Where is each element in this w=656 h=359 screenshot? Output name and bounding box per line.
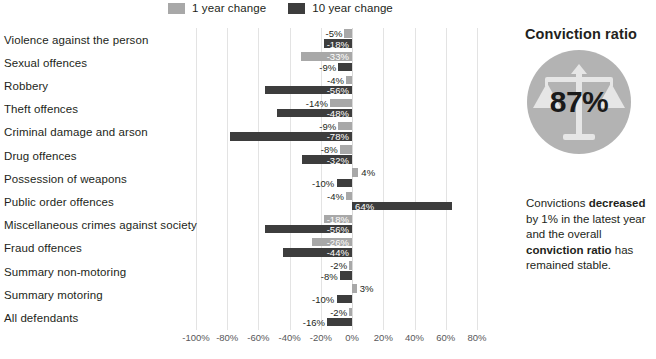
axis-tick-label: -60% <box>247 332 269 343</box>
bar-1-year-change <box>330 99 352 107</box>
axis-tick-label: -80% <box>216 332 238 343</box>
bar-1-year-change <box>340 145 352 153</box>
bar-10-year-change <box>338 63 352 71</box>
infographic-root: 1 year change 10 year change Violence ag… <box>0 0 656 359</box>
bar-10-year-change <box>337 295 353 303</box>
bar-value-label: -14% <box>306 99 328 109</box>
row-bars: -14%-48% <box>0 98 492 121</box>
emphasis-text: decreased <box>589 197 646 209</box>
bar-1-year-change <box>346 192 352 200</box>
panel-description: Convictions decreased by 1% in the lates… <box>526 196 654 274</box>
legend-swatch-icon <box>168 3 185 14</box>
chart-row: Theft offences-14%-48% <box>0 98 492 121</box>
chart-row: All defendants-2%-16% <box>0 306 492 329</box>
chart-row: Miscellaneous crimes against society-18%… <box>0 214 492 237</box>
chart-row: Robbery-4%-56% <box>0 74 492 97</box>
bar-1-year-change <box>344 29 352 37</box>
body-text: by 1% in the latest year and the overall <box>526 213 646 241</box>
conviction-ratio-dial: 87% <box>527 50 631 154</box>
bar-value-label: -26% <box>327 238 349 248</box>
chart-row: Violence against the person-5%-18% <box>0 28 492 51</box>
bar-value-label: -56% <box>327 86 349 96</box>
bar-value-label: -10% <box>312 295 334 305</box>
bar-value-label: -9% <box>319 63 336 73</box>
chart-row: Summary motoring3%-10% <box>0 283 492 306</box>
bar-value-label: -18% <box>327 40 349 50</box>
row-bars: 4%-10% <box>0 167 492 190</box>
axis-tick-label: 60% <box>436 332 455 343</box>
chart-row: Possession of weapons4%-10% <box>0 167 492 190</box>
bar-1-year-change <box>352 168 358 176</box>
bar-10-year-change <box>327 318 352 326</box>
conviction-ratio-panel: Conviction ratio 87% Convictions decreas… <box>497 0 656 359</box>
row-bars: -4%64% <box>0 190 492 213</box>
bar-value-label: -33% <box>327 52 349 62</box>
emphasis-text: conviction ratio <box>526 244 612 256</box>
axis-tick-label: -20% <box>310 332 332 343</box>
bar-value-label: -4% <box>327 192 344 202</box>
chart-row: Fraud offences-26%-44% <box>0 237 492 260</box>
bar-value-label: -9% <box>319 122 336 132</box>
bar-value-label: -5% <box>326 29 343 39</box>
bar-1-year-change <box>352 284 357 292</box>
row-bars: 3%-10% <box>0 283 492 306</box>
row-bars: -2%-8% <box>0 260 492 283</box>
bar-value-label: -44% <box>327 248 349 258</box>
chart-legend: 1 year change 10 year change <box>168 2 393 14</box>
bar-value-label: -16% <box>303 318 325 328</box>
row-bars: -26%-44% <box>0 237 492 260</box>
row-bars: -2%-16% <box>0 306 492 329</box>
body-text: Convictions <box>526 197 589 209</box>
bar-1-year-change <box>346 76 352 84</box>
bar-value-label: -78% <box>327 132 349 142</box>
bar-value-label: -32% <box>327 156 349 166</box>
legend-item-1-year-change: 1 year change <box>168 2 266 14</box>
bar-1-year-change <box>349 261 352 269</box>
chart-row: Public order offences-4%64% <box>0 190 492 213</box>
bar-10-year-change <box>337 179 353 187</box>
bar-value-label: -10% <box>312 179 334 189</box>
axis-tick-label: 0% <box>345 332 359 343</box>
bar-value-label: -2% <box>330 261 347 271</box>
axis-tick-label: 20% <box>374 332 393 343</box>
bar-value-label: -56% <box>327 225 349 235</box>
dial-value: 87% <box>527 85 631 119</box>
panel-title: Conviction ratio <box>525 26 637 42</box>
row-bars: -9%-78% <box>0 121 492 144</box>
bar-value-label: -18% <box>327 215 349 225</box>
bar-value-label: -8% <box>321 272 338 282</box>
chart-rows: Violence against the person-5%-18%Sexual… <box>0 28 492 330</box>
bar-1-year-change <box>349 308 352 316</box>
bar-value-label: -8% <box>321 145 338 155</box>
row-bars: -4%-56% <box>0 74 492 97</box>
legend-label: 1 year change <box>192 2 266 14</box>
bar-chart: Violence against the person-5%-18%Sexual… <box>0 28 492 330</box>
row-bars: -5%-18% <box>0 28 492 51</box>
bar-value-label: 4% <box>361 168 375 178</box>
chart-row: Summary non-motoring-2%-8% <box>0 260 492 283</box>
x-axis: -100%-80%-60%-40%-20%0%20%40%60%80% <box>0 332 492 348</box>
bar-value-label: -4% <box>327 76 344 86</box>
row-bars: -33%-9% <box>0 51 492 74</box>
legend-item-10-year-change: 10 year change <box>288 2 393 14</box>
axis-tick-label: -100% <box>182 332 209 343</box>
legend-swatch-icon <box>288 3 305 14</box>
bar-10-year-change <box>340 271 352 279</box>
row-bars: -18%-56% <box>0 214 492 237</box>
axis-tick-label: 80% <box>467 332 486 343</box>
bar-value-label: 64% <box>355 202 374 212</box>
bar-value-label: 3% <box>360 284 374 294</box>
axis-tick-label: 40% <box>405 332 424 343</box>
row-bars: -8%-32% <box>0 144 492 167</box>
bar-1-year-change <box>338 122 352 130</box>
legend-label: 10 year change <box>312 2 393 14</box>
axis-tick-label: -40% <box>279 332 301 343</box>
chart-row: Drug offences-8%-32% <box>0 144 492 167</box>
bar-value-label: -2% <box>330 308 347 318</box>
bar-value-label: -48% <box>327 109 349 119</box>
chart-row: Sexual offences-33%-9% <box>0 51 492 74</box>
chart-row: Criminal damage and arson-9%-78% <box>0 121 492 144</box>
